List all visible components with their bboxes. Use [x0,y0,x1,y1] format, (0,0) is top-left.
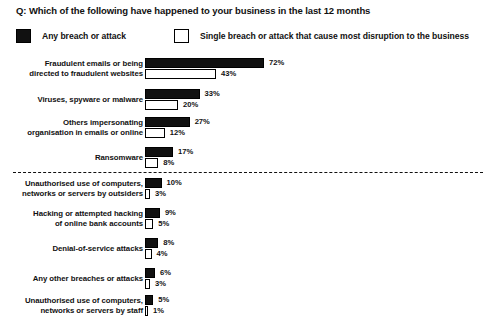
bar-any-breach [145,268,155,278]
bar-row: 6% [145,268,445,278]
bar-value-label: 17% [178,147,193,157]
bar-any-breach [145,238,158,248]
section-separator [13,172,483,173]
bar-row: 8% [145,238,445,248]
category-label: Hacking or attempted hackingof online ba… [0,209,143,230]
chart-container: Q: Which of the following have happened … [0,0,491,327]
category-label: Viruses, spyware or malware [0,95,143,106]
category-label-line: directed to fraudulent websites [0,69,143,80]
category-label-line: Unauthorised use of computers, [0,296,143,307]
bar-row: 17% [145,147,445,157]
category-label-line: Ransomware [0,153,143,164]
bar-single-breach [145,128,165,138]
bar-value-label: 3% [155,279,166,289]
bar-row: 9% [145,208,445,218]
bar-row: 12% [145,128,445,138]
bar-any-breach [145,295,153,305]
bar-value-label: 10% [167,178,182,188]
category-label-line: networks or servers by staff [0,306,143,317]
category-label: Unauthorised use of computers,networks o… [0,296,143,317]
bar-single-breach [145,279,150,289]
bar-value-label: 6% [160,268,171,278]
category-label-line: Hacking or attempted hacking [0,209,143,220]
category-label: Fraudulent emails or beingdirected to fr… [0,59,143,80]
bar-any-breach [145,147,173,157]
bar-row: 5% [145,295,445,305]
bar-row: 10% [145,178,445,188]
bar-single-breach [145,189,150,199]
category-label-line: Others impersonating [0,118,143,129]
bar-any-breach [145,58,264,68]
bar-single-breach [145,306,148,316]
category-label-line: of online bank accounts [0,219,143,230]
bar-row: 5% [145,219,445,229]
bar-value-label: 8% [163,238,174,248]
bar-value-label: 4% [157,249,168,259]
bar-row: 43% [145,69,445,79]
plot-area: Fraudulent emails or beingdirected to fr… [0,0,491,327]
bar-value-label: 9% [165,208,176,218]
bar-value-label: 43% [221,69,236,79]
bar-row: 27% [145,117,445,127]
bar-row: 20% [145,100,445,110]
category-label: Denial-of-service attacks [0,244,143,255]
bar-value-label: 12% [170,128,185,138]
bar-value-label: 5% [158,219,169,229]
bar-any-breach [145,89,200,99]
category-label: Others impersonatingorganisation in emai… [0,118,143,139]
bar-any-breach [145,208,160,218]
bar-row: 3% [145,189,445,199]
bar-single-breach [145,219,153,229]
category-label-line: networks or servers by outsiders [0,189,143,200]
category-label-line: organisation in emails or online [0,128,143,139]
bar-value-label: 1% [153,306,164,316]
bar-any-breach [145,178,162,188]
bar-single-breach [145,69,216,79]
bar-value-label: 3% [155,189,166,199]
category-label-line: Unauthorised use of computers, [0,179,143,190]
category-label: Any other breaches or attacks [0,274,143,285]
category-label: Ransomware [0,153,143,164]
bar-value-label: 27% [195,117,210,127]
bar-row: 72% [145,58,445,68]
bar-single-breach [145,158,158,168]
bar-value-label: 33% [205,89,220,99]
bar-single-breach [145,100,178,110]
bar-row: 3% [145,279,445,289]
bar-row: 8% [145,158,445,168]
bar-value-label: 72% [269,58,284,68]
bar-any-breach [145,117,190,127]
bar-row: 33% [145,89,445,99]
bar-value-label: 5% [158,295,169,305]
bar-single-breach [145,249,152,259]
bar-value-label: 20% [183,100,198,110]
category-label: Unauthorised use of computers,networks o… [0,179,143,200]
category-label-line: Any other breaches or attacks [0,274,143,285]
bar-row: 4% [145,249,445,259]
category-label-line: Fraudulent emails or being [0,59,143,70]
category-label-line: Viruses, spyware or malware [0,95,143,106]
category-label-line: Denial-of-service attacks [0,244,143,255]
bar-row: 1% [145,306,445,316]
bar-value-label: 8% [163,158,174,168]
